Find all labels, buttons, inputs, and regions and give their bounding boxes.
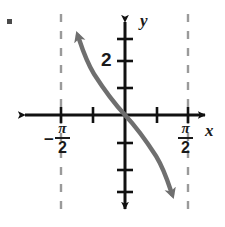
x-tick-label-pos-half-pi: π 2: [178, 121, 193, 156]
fraction: π 2: [178, 121, 193, 156]
curve-lower-right-branch: [125, 115, 172, 194]
fraction-numerator: π: [56, 121, 68, 137]
y-tick-label-2: 2: [101, 50, 112, 69]
x-axis-label: x: [205, 122, 214, 139]
x-tick-label-neg-half-pi: − π 2: [44, 121, 70, 156]
minus-sign: −: [44, 130, 54, 150]
fraction-denominator: 2: [58, 139, 67, 156]
y-axis-label: y: [140, 12, 148, 29]
fraction-denominator: 2: [181, 139, 190, 156]
tangent-graph-figure: y x 2 − π 2 π 2: [0, 0, 225, 227]
curve-upper-left-branch: [78, 36, 125, 115]
fraction-numerator: π: [179, 121, 191, 137]
fraction: π 2: [55, 121, 70, 156]
plot-canvas: [0, 0, 225, 227]
